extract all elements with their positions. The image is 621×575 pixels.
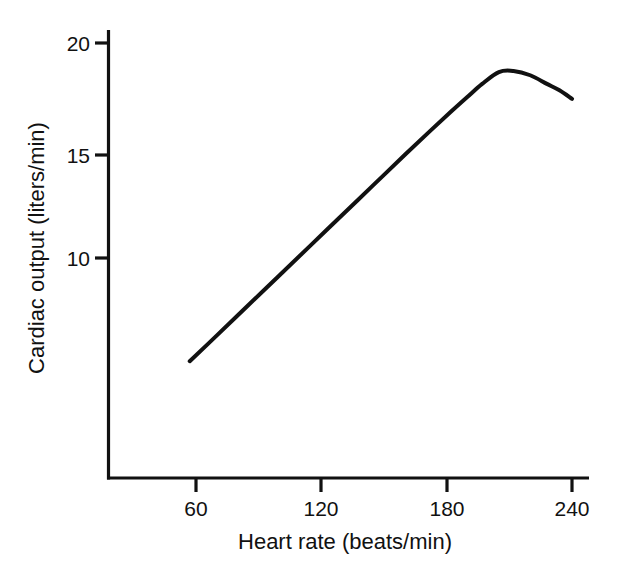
y-tick-label-15: 15 [58, 145, 90, 166]
x-axis-title: Heart rate (beats/min) [238, 531, 452, 553]
x-tick-label-60: 60 [184, 498, 207, 519]
chart-plot-area [0, 0, 621, 575]
x-tick-label-180: 180 [429, 498, 464, 519]
y-tick-label-20: 20 [58, 33, 90, 54]
x-tick-label-120: 120 [303, 498, 338, 519]
cardiac-output-curve [190, 70, 572, 361]
cardiac-output-chart: 20 15 10 60 120 180 240 Heart rate (beat… [0, 0, 621, 575]
y-axis-title: Cardiac output (liters/min) [26, 122, 48, 374]
y-tick-label-10: 10 [58, 248, 90, 269]
x-tick-label-240: 240 [554, 498, 589, 519]
